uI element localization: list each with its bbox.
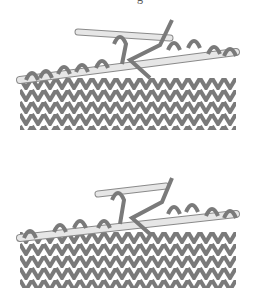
knit-fabric [20, 78, 236, 130]
knit-fabric [20, 232, 236, 288]
knitting-illustration-step-1 [0, 0, 259, 152]
knitting-illustration-step-2 [0, 152, 259, 304]
working-yarn [130, 20, 172, 78]
